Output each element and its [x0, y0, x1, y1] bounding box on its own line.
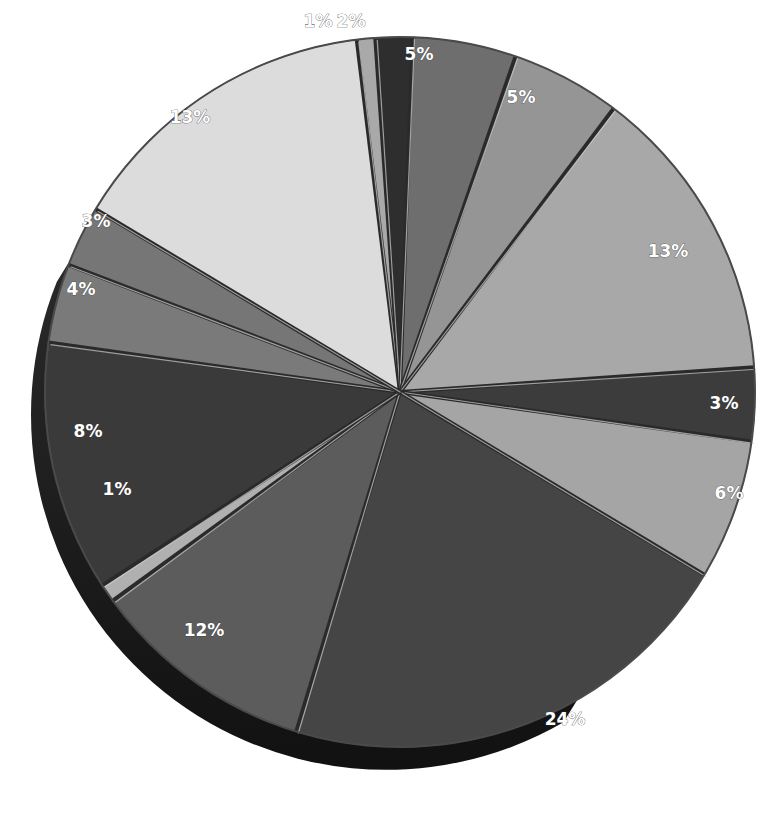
slice-label: 24% [545, 709, 586, 729]
slice-label: 5% [507, 87, 536, 107]
slice-label: 6% [715, 483, 744, 503]
slice-label: 3% [710, 393, 739, 413]
slice-label: 2% [337, 11, 366, 31]
slice-label: 8% [74, 421, 103, 441]
pie-chart: 1%2%5%5%13%3%6%24%12%1%8%4%3%13% [0, 0, 771, 817]
slice-label: 5% [405, 44, 434, 64]
slice-label: 12% [184, 620, 225, 640]
slice-label: 1% [103, 479, 132, 499]
slice-label: 1% [304, 11, 333, 31]
slice-label: 3% [82, 211, 111, 231]
slice-label: 13% [170, 107, 211, 127]
slice-label: 4% [67, 279, 96, 299]
slice-label: 13% [648, 241, 689, 261]
